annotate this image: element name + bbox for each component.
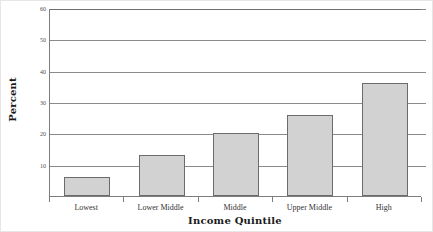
- y-tick-label-40: 40: [26, 69, 46, 75]
- y-tick-label-20: 20: [26, 131, 46, 137]
- plot-area: [49, 9, 421, 197]
- bar-lowest: [64, 177, 110, 196]
- y-axis-tick-labels: 605040302010: [21, 9, 46, 197]
- gridline-tick-right-10: [421, 166, 426, 167]
- gridline-tick-right-40: [421, 72, 426, 73]
- x-axis-title: Income Quintile: [49, 215, 421, 226]
- x-axis-tick-2: [198, 197, 199, 202]
- x-axis-tick-4: [347, 197, 348, 202]
- bar-chart-figure: Percent 605040302010 LowestLower MiddleM…: [0, 0, 433, 232]
- bar-middle: [213, 133, 259, 196]
- x-axis-tick-0: [49, 197, 50, 202]
- y-tick-label-30: 30: [26, 100, 46, 106]
- x-tick-label-high: High: [376, 203, 392, 212]
- gridline-tick-right-50: [421, 40, 426, 41]
- x-axis-tick-1: [123, 197, 124, 202]
- x-tick-label-lowest: Lowest: [74, 203, 98, 212]
- x-tick-label-middle: Middle: [223, 203, 246, 212]
- gridline-tick-right-60: [421, 9, 426, 10]
- x-axis-tick-3: [272, 197, 273, 202]
- bar-series: [50, 9, 421, 196]
- y-tick-label-50: 50: [26, 37, 46, 43]
- y-tick-label-10: 10: [26, 163, 46, 169]
- gridline-tick-right-20: [421, 134, 426, 135]
- bar-lower-middle: [139, 155, 185, 196]
- y-axis-title: Percent: [1, 1, 23, 197]
- x-tick-label-lower-middle: Lower Middle: [138, 203, 184, 212]
- x-tick-label-upper-middle: Upper Middle: [287, 203, 332, 212]
- y-axis-title-label: Percent: [7, 77, 18, 122]
- gridline-tick-right-30: [421, 103, 426, 104]
- bar-upper-middle: [287, 115, 333, 196]
- bar-high: [362, 83, 408, 196]
- y-tick-label-60: 60: [26, 6, 46, 12]
- x-axis-tick-5: [421, 197, 422, 202]
